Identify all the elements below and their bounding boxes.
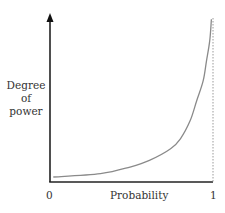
- y-label-line: of: [4, 92, 48, 105]
- x-axis-label: Probability: [110, 189, 168, 201]
- x-tick-1: 1: [210, 189, 217, 201]
- y-label-line: power: [4, 105, 48, 118]
- x-tick-0: 0: [46, 189, 53, 201]
- power-curve: [53, 19, 211, 177]
- y-axis-label: Degree of power: [4, 79, 48, 118]
- y-label-line: Degree: [4, 79, 48, 92]
- y-axis-arrow-icon: [47, 13, 54, 22]
